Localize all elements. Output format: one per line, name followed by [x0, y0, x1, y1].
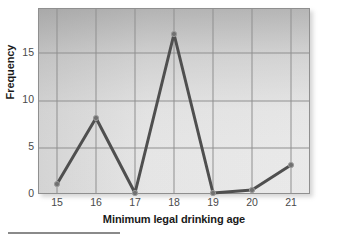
x-tick-label-16: 16	[81, 196, 111, 208]
data-point-21	[288, 162, 293, 167]
y-tick-label-0: 0	[14, 188, 34, 199]
y-tick-label-5: 5	[14, 141, 34, 152]
x-tick-label-15: 15	[42, 196, 72, 208]
data-point-15	[54, 181, 59, 186]
footer-divider	[8, 232, 120, 234]
data-series-line	[38, 8, 310, 194]
data-point-19	[210, 190, 215, 195]
plot-area	[38, 8, 310, 194]
data-point-17	[132, 190, 137, 195]
y-axis-tick-labels: 15 10 5 0	[12, 0, 34, 241]
frequency-polygon-chart: Frequency 15 10 5 0	[0, 0, 338, 241]
x-tick-label-20: 20	[237, 196, 267, 208]
y-tick-label-10: 10	[14, 94, 34, 105]
data-point-18	[171, 31, 176, 36]
x-tick-label-21: 21	[276, 196, 306, 208]
x-tick-label-19: 19	[198, 196, 228, 208]
data-point-16	[93, 115, 98, 120]
x-axis-title: Minimum legal drinking age	[38, 213, 310, 225]
data-point-20	[249, 187, 254, 192]
y-tick-label-15: 15	[14, 47, 34, 58]
x-tick-label-17: 17	[120, 196, 150, 208]
x-tick-label-18: 18	[159, 196, 189, 208]
x-axis-tick-labels: 15 16 17 18 19 20 21	[38, 196, 310, 212]
